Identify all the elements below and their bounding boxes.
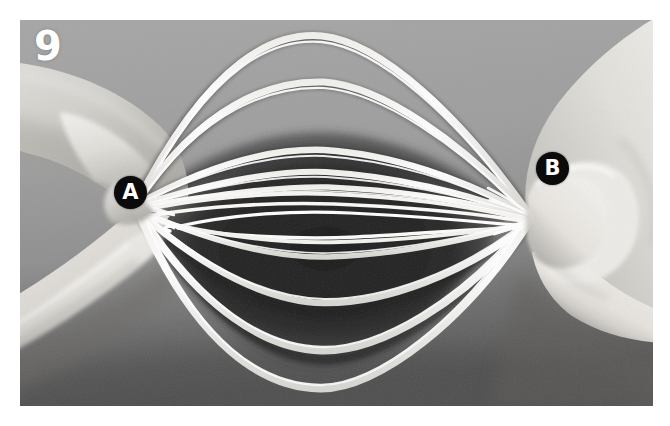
annotation-badge-b: B [536, 152, 569, 185]
annotation-badge-a: A [114, 176, 147, 209]
photograph-canvas [20, 20, 653, 406]
film-grain [20, 20, 653, 406]
photograph: 9 A B [20, 20, 653, 406]
figure-step-number: 9 [34, 26, 61, 66]
figure-container: 9 A B [0, 0, 670, 426]
